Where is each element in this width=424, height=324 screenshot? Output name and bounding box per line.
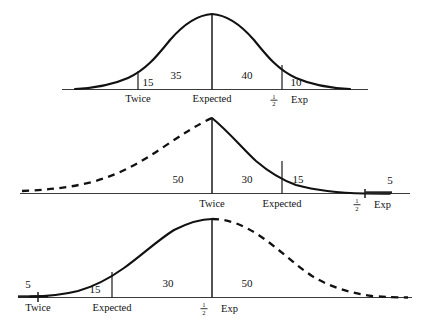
- chart-bottom-tick-label-twice: Twice: [25, 302, 51, 313]
- chart-bottom-tick-label-half-exp: 1 2 Exp: [201, 301, 238, 316]
- chart-top-frac-numerator: 1: [272, 93, 275, 100]
- chart-middle-exp-word: Exp: [374, 199, 391, 210]
- figure-three-distribution-curves: 15 35 40 10 Twice Expected 1 2 Exp 50 3: [0, 0, 424, 324]
- chart-bottom-exp-word: Exp: [221, 303, 238, 314]
- chart-top-frac-denominator: 2: [272, 100, 275, 107]
- chart-bottom-frac-numerator: 1: [202, 301, 205, 308]
- chart-middle-tick-label-half-exp: 1 2 Exp: [354, 197, 391, 212]
- chart-middle: 50 30 15 5 Twice Expected 1 2 Exp: [20, 118, 410, 212]
- chart-bottom-segment-label-3: 30: [163, 277, 175, 289]
- chart-top-exp-word: Exp: [291, 94, 308, 105]
- chart-top-tick-label-half-exp: 1 2 Exp: [271, 93, 308, 108]
- chart-bottom-frac-denominator: 2: [202, 309, 205, 316]
- chart-bottom: 5 15 30 50 Twice Expected 1 2 Exp: [18, 219, 412, 316]
- chart-middle-frac-denominator: 2: [355, 205, 358, 212]
- chart-top-segment-label-3: 40: [242, 69, 254, 81]
- chart-middle-segment-label-1: 50: [173, 173, 185, 185]
- chart-top: 15 35 40 10 Twice Expected 1 2 Exp: [62, 14, 368, 107]
- chart-bottom-segment-label-2: 15: [90, 283, 102, 295]
- chart-bottom-segment-label-4: 50: [242, 277, 254, 289]
- chart-top-tick-label-twice: Twice: [125, 93, 151, 104]
- chart-top-tick-label-expected: Expected: [192, 93, 232, 104]
- chart-top-segment-label-4: 10: [291, 76, 303, 88]
- chart-middle-segment-label-4: 5: [387, 174, 393, 186]
- chart-top-segment-label-2: 35: [171, 69, 183, 81]
- chart-middle-tick-label-expected: Expected: [262, 198, 302, 209]
- chart-top-segment-label-1: 15: [143, 76, 155, 88]
- chart-bottom-segment-label-1: 5: [25, 278, 31, 290]
- chart-middle-frac-numerator: 1: [355, 197, 358, 204]
- chart-bottom-tick-label-expected: Expected: [92, 302, 132, 313]
- chart-middle-segment-label-3: 15: [293, 173, 305, 185]
- chart-middle-segment-label-2: 30: [242, 173, 254, 185]
- chart-bottom-curve-solid-head: [30, 219, 212, 297]
- chart-middle-tick-label-twice: Twice: [199, 198, 225, 209]
- chart-middle-curve-dashed-tail: [22, 118, 212, 191]
